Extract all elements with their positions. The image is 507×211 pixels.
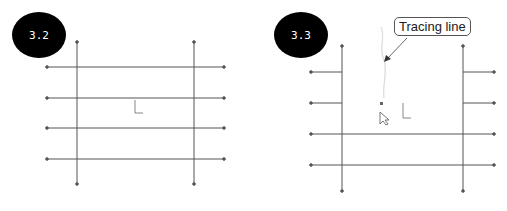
mouse-cursor-icon bbox=[380, 112, 389, 125]
sketch-canvas bbox=[0, 0, 507, 211]
tracing-line-path bbox=[381, 27, 385, 98]
callout-arrow bbox=[387, 38, 407, 59]
